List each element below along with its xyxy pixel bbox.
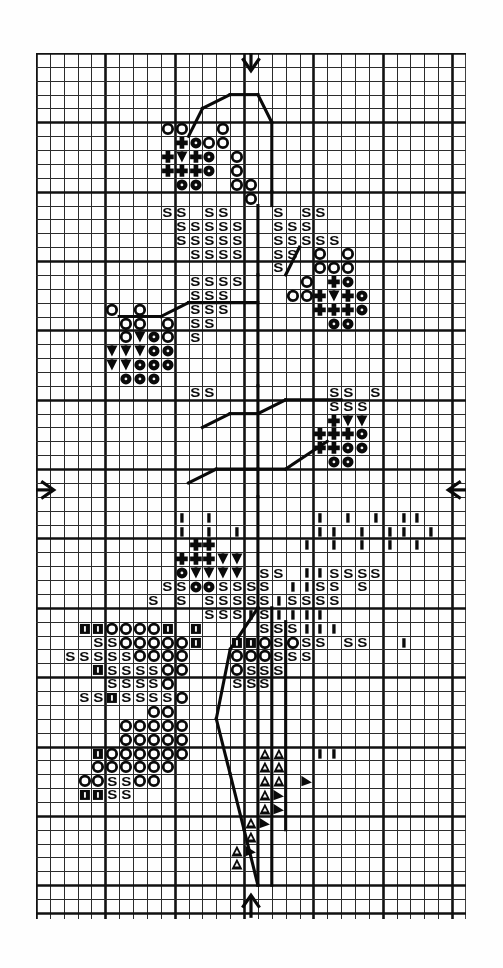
bottom-center-arrow (242, 895, 259, 918)
centering-arrow-layer (36, 53, 466, 919)
cross-stitch-chart: SSSSSSSSSSSSSSSSSSSSSSSSSSSSSSSSSSSSSSSS… (0, 0, 503, 968)
right-center-arrow (448, 481, 466, 498)
pattern-grid: SSSSSSSSSSSSSSSSSSSSSSSSSSSSSSSSSSSSSSSS… (36, 53, 466, 919)
top-center-arrow (242, 53, 259, 71)
left-center-arrow (36, 481, 54, 498)
